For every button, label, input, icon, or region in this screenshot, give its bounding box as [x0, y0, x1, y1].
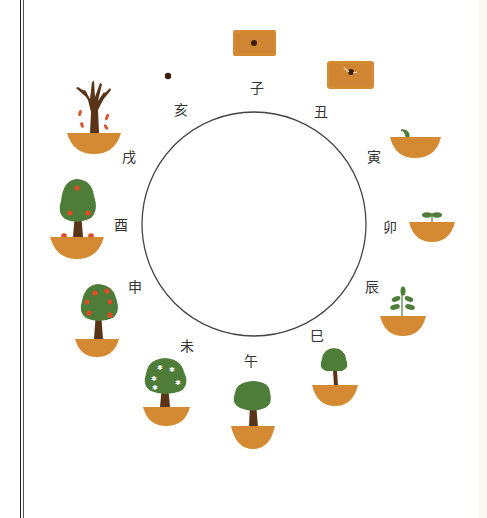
branch-label-yin: 寅 — [367, 150, 381, 164]
single-sprout-icon — [390, 130, 441, 158]
two-leaf-seedling-icon — [409, 212, 455, 242]
growth-cycle-illustration: ✱ ✱ ✱ ✱ ✱ — [0, 0, 487, 518]
branch-label-wei: 未 — [180, 339, 194, 353]
branch-label-zi: 子 — [250, 81, 264, 95]
branch-label-si: 巳 — [310, 329, 324, 343]
svg-text:✱: ✱ — [157, 364, 163, 372]
lone-seed-icon — [165, 73, 171, 79]
full-tree-icon — [231, 381, 275, 449]
small-tree-icon — [312, 348, 358, 406]
branch-label-xu: 戌 — [122, 150, 136, 164]
svg-text:✱: ✱ — [151, 375, 157, 383]
branch-label-chou: 丑 — [314, 105, 328, 119]
svg-text:✱: ✱ — [152, 384, 158, 392]
branch-label-mao: 卯 — [383, 220, 397, 234]
svg-text:✱: ✱ — [169, 366, 175, 374]
branch-label-shen: 申 — [128, 280, 142, 294]
branch-label-you: 酉 — [114, 218, 128, 232]
seed-in-soil-icon — [233, 30, 276, 56]
branch-label-hai: 亥 — [174, 103, 188, 117]
leafy-sapling-icon — [380, 287, 426, 337]
fruiting-tree-icon — [75, 284, 119, 357]
cycle-circle — [142, 112, 366, 336]
blossoming-tree-icon: ✱ ✱ ✱ ✱ ✱ — [143, 358, 190, 426]
svg-text:✱: ✱ — [175, 379, 181, 387]
fruit-falling-tree-icon — [50, 179, 104, 259]
seed-cracking-icon — [327, 61, 374, 89]
bare-tree-icon — [67, 81, 121, 154]
branch-label-chen: 辰 — [365, 280, 379, 294]
branch-label-wu: 午 — [244, 354, 258, 368]
